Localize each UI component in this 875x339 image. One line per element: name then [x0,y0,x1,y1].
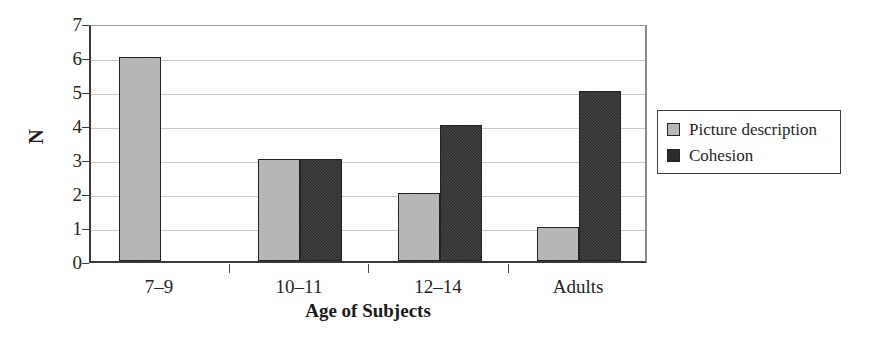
y-tick-label: 4 [52,117,82,136]
x-axis-separator [368,264,369,273]
y-tick-label: 0 [52,253,82,272]
gridline [91,162,645,163]
x-tick-label: Adults [508,276,648,297]
x-axis-title: Age of Subjects [89,300,647,322]
x-tick-label: 12–14 [368,276,508,297]
legend-label: Picture description [689,120,817,139]
bar [398,193,440,261]
gridline [91,196,645,197]
y-tick-mark [82,263,89,264]
y-tick-mark [82,59,89,60]
y-tick-label: 3 [52,151,82,170]
y-tick-mark [82,229,89,230]
legend-swatch-icon [667,123,680,136]
legend-swatch-icon [667,149,680,162]
bar [579,91,621,261]
bar-chart-figure: N 01234567 7–910–1112–14Adults Age of Su… [0,0,875,339]
y-tick-label: 5 [52,83,82,102]
bar [119,57,161,261]
bar [440,125,482,261]
y-tick-label: 6 [52,49,82,68]
y-axis-title: N [24,115,49,159]
y-tick-label: 2 [52,185,82,204]
bar [537,227,579,261]
y-tick-mark [82,93,89,94]
y-tick-label: 1 [52,219,82,238]
y-tick-mark [82,127,89,128]
y-tick-mark [82,161,89,162]
x-tick-label: 7–9 [89,276,229,297]
plot-area [89,25,647,263]
gridline [91,60,645,61]
bar [300,159,342,261]
gridline [91,128,645,129]
x-axis-separator [508,264,509,273]
x-tick-label: 10–11 [229,276,369,297]
x-axis-separator [229,264,230,273]
y-tick-mark [82,25,89,26]
bar [258,159,300,261]
legend-item: Picture description [667,116,840,142]
gridline [91,94,645,95]
y-tick-mark [82,195,89,196]
y-tick-label: 7 [52,15,82,34]
legend-label: Cohesion [689,146,753,165]
chart-legend: Picture descriptionCohesion [657,110,841,174]
legend-item: Cohesion [667,142,840,168]
